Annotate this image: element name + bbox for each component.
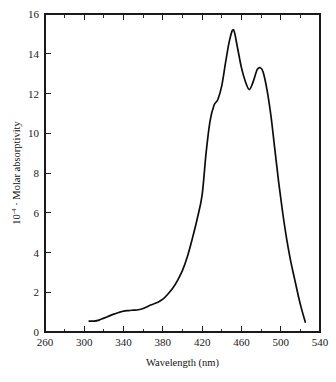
y-tick-label: 0	[34, 326, 40, 338]
x-tick-label: 340	[115, 336, 132, 348]
y-axis-title-text: Molar absorptivity	[11, 120, 22, 199]
y-axis-title-separator: ·	[11, 200, 22, 209]
chart-background	[0, 0, 336, 382]
x-axis-title: Wavelength (nm)	[146, 357, 219, 369]
y-tick-label: 16	[28, 8, 40, 20]
chart-canvas: 260300340380420460500540 0246810121416 W…	[0, 0, 336, 382]
spectrum-figure: 260300340380420460500540 0246810121416 W…	[0, 0, 336, 382]
svg-text:10-4 · Molar absorptivity: 10-4 · Molar absorptivity	[10, 120, 22, 224]
y-tick-label: 12	[28, 88, 39, 100]
x-tick-label: 460	[233, 336, 250, 348]
x-tick-label: 500	[272, 336, 289, 348]
x-tick-label: 380	[155, 336, 172, 348]
x-tick-label: 420	[194, 336, 211, 348]
y-tick-label: 4	[34, 247, 40, 259]
y-tick-label: 8	[34, 167, 40, 179]
y-tick-label: 2	[34, 286, 40, 298]
y-tick-label: 10	[28, 127, 40, 139]
y-axis-title-prefix: 10	[11, 214, 22, 225]
x-tick-label: 540	[312, 336, 329, 348]
y-axis-title: 10-4 · Molar absorptivity	[10, 120, 22, 224]
y-tick-label: 6	[34, 207, 40, 219]
y-tick-label: 14	[28, 48, 40, 60]
x-tick-label: 300	[76, 336, 93, 348]
x-tick-label: 260	[37, 336, 54, 348]
